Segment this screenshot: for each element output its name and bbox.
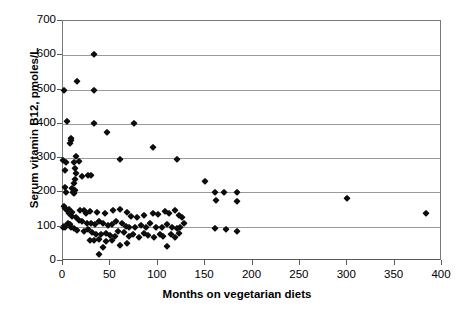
data-point: [91, 120, 97, 126]
data-point: [61, 86, 67, 92]
gridline-y-500: [63, 90, 440, 91]
data-point: [151, 234, 157, 240]
data-point: [91, 87, 97, 93]
y-tick-mark-100: [57, 226, 62, 227]
data-point: [136, 234, 142, 240]
data-point: [423, 210, 429, 216]
data-point: [117, 206, 123, 212]
data-point: [94, 209, 100, 215]
x-tick-label-350: 350: [374, 269, 414, 281]
data-point: [63, 158, 69, 164]
data-point: [103, 129, 109, 135]
data-point: [140, 211, 146, 217]
data-point: [79, 173, 85, 179]
data-point: [124, 240, 130, 246]
data-point: [234, 198, 240, 204]
y-tick-label-300: 300: [22, 151, 56, 163]
data-point: [344, 194, 350, 200]
data-point: [62, 167, 68, 173]
x-tick-label-100: 100: [137, 269, 177, 281]
y-tick-label-200: 200: [22, 185, 56, 197]
data-point: [150, 144, 156, 150]
x-tick-mark-50: [109, 260, 110, 265]
x-tick-mark-200: [252, 260, 253, 265]
data-point: [211, 189, 217, 195]
x-tick-label-300: 300: [326, 269, 366, 281]
data-point: [134, 214, 140, 220]
data-point: [96, 251, 102, 257]
data-point: [234, 189, 240, 195]
x-tick-label-0: 0: [42, 269, 82, 281]
y-tick-mark-500: [57, 89, 62, 90]
data-point: [173, 156, 179, 162]
y-tick-mark-700: [57, 20, 62, 21]
gridline-y-600: [63, 55, 440, 56]
data-point: [179, 214, 185, 220]
y-tick-mark-200: [57, 191, 62, 192]
data-point: [202, 178, 208, 184]
y-tick-label-600: 600: [22, 48, 56, 60]
plot-area: [62, 20, 441, 260]
x-tick-mark-400: [441, 260, 442, 265]
data-point: [131, 120, 137, 126]
x-tick-label-150: 150: [184, 269, 224, 281]
x-tick-label-250: 250: [279, 269, 319, 281]
data-point: [91, 51, 97, 57]
x-tick-label-400: 400: [421, 269, 461, 281]
y-tick-label-400: 400: [22, 117, 56, 129]
x-tick-mark-100: [157, 260, 158, 265]
data-point: [117, 241, 123, 247]
data-point: [100, 243, 106, 249]
data-point: [74, 227, 80, 233]
data-point: [155, 210, 161, 216]
data-point: [160, 233, 166, 239]
gridline-y-200: [63, 192, 440, 193]
gridline-y-100: [63, 227, 440, 228]
x-tick-label-50: 50: [89, 269, 129, 281]
y-tick-label-500: 500: [22, 83, 56, 95]
scatter-chart: Serum vitamin B12, pmoles/L Months on ve…: [0, 0, 474, 315]
x-tick-mark-150: [204, 260, 205, 265]
data-point: [234, 228, 240, 234]
data-point: [211, 225, 217, 231]
y-tick-mark-400: [57, 123, 62, 124]
x-tick-label-200: 200: [232, 269, 272, 281]
data-point: [88, 172, 94, 178]
data-point: [74, 78, 80, 84]
data-point: [164, 242, 170, 248]
data-point: [110, 207, 116, 213]
y-tick-mark-600: [57, 54, 62, 55]
data-point: [221, 189, 227, 195]
x-axis-title: Months on vegetarian diets: [0, 288, 474, 300]
data-point: [101, 210, 107, 216]
y-tick-label-100: 100: [22, 220, 56, 232]
x-tick-mark-300: [346, 260, 347, 265]
y-tick-label-700: 700: [22, 14, 56, 26]
data-point: [223, 226, 229, 232]
data-point: [213, 197, 219, 203]
data-point: [63, 189, 69, 195]
data-point: [166, 210, 172, 216]
data-point: [147, 219, 153, 225]
data-point: [117, 156, 123, 162]
y-tick-label-0: 0: [22, 254, 56, 266]
x-tick-mark-350: [394, 260, 395, 265]
gridline-y-400: [63, 124, 440, 125]
x-tick-mark-250: [299, 260, 300, 265]
y-tick-mark-300: [57, 157, 62, 158]
x-tick-mark-0: [62, 260, 63, 265]
